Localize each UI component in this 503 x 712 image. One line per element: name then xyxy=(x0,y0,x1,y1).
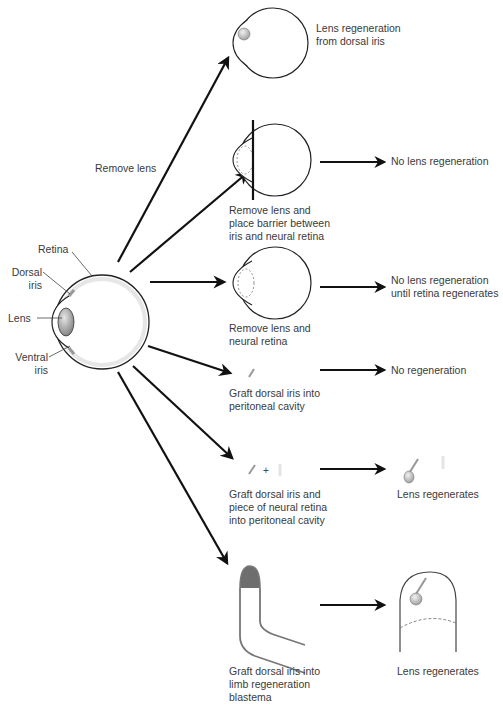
label-ventral-iris: Ventral iris xyxy=(6,351,48,377)
eye-result-3 xyxy=(233,247,384,319)
label-retina: Retina xyxy=(38,243,68,256)
label-dorsal-iris: Dorsal iris xyxy=(6,266,42,292)
eye-result-2 xyxy=(233,120,384,200)
plus-sign: + xyxy=(263,465,269,476)
procedure-4: Graft dorsal iris into peritoneal cavity xyxy=(229,387,320,413)
lens-regeneration-diagram: + xyxy=(0,0,503,712)
arrow-label-remove-lens: Remove lens xyxy=(95,162,156,175)
outcome-3: No lens regeneration until retina regene… xyxy=(391,274,498,300)
outcome-4: No regeneration xyxy=(391,364,466,377)
blastema-graft xyxy=(240,566,456,673)
procedure-3: Remove lens and neural retina xyxy=(229,322,311,348)
graft-iris-retina: + xyxy=(249,456,443,483)
lens-shape xyxy=(58,308,74,336)
outcome-5: Lens regenerates xyxy=(397,488,479,501)
label-lens: Lens xyxy=(8,312,31,325)
graft-peritoneal xyxy=(249,369,384,377)
eye-result-1 xyxy=(233,8,308,78)
outcome-1: Lens regeneration from dorsal iris xyxy=(316,22,401,48)
procedure-6: Graft dorsal iris into limb regeneration… xyxy=(229,665,320,704)
procedure-5: Graft dorsal iris and piece of neural re… xyxy=(229,488,327,527)
outcome-2: No lens regeneration xyxy=(391,155,488,168)
outcome-6: Lens regenerates xyxy=(397,665,479,678)
procedure-2: Remove lens and place barrier between ir… xyxy=(229,204,330,243)
